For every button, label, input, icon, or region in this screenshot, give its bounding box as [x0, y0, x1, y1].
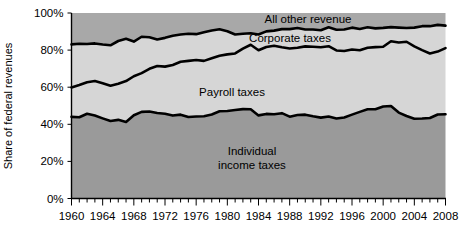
series-label-all-other-revenue: All other revenue — [265, 13, 352, 25]
x-axis-tick-label: 1984 — [246, 210, 272, 222]
x-axis-tick-label: 1964 — [90, 210, 116, 222]
x-axis-tick-label: 2000 — [370, 210, 396, 222]
series-label-individual-income-taxes-line2: income taxes — [218, 159, 286, 171]
x-axis-tick-label: 1976 — [183, 210, 209, 222]
y-axis-tick-label: 60% — [40, 81, 63, 93]
x-axis-tick-label: 1960 — [59, 210, 85, 222]
y-axis-tick-label: 100% — [34, 7, 63, 19]
x-axis-tick-label: 1968 — [121, 210, 147, 222]
x-axis-tick-label: 1972 — [152, 210, 178, 222]
series-label-payroll-taxes: Payroll taxes — [199, 86, 265, 98]
y-axis-tick-label: 20% — [40, 155, 63, 167]
x-axis-tick-label: 2004 — [402, 210, 428, 222]
y-axis-tick-label: 80% — [40, 44, 63, 56]
x-axis-tick-label: 1992 — [308, 210, 334, 222]
x-axis-tick-label: 1996 — [339, 210, 365, 222]
series-label-corporate-taxes: Corporate taxes — [249, 32, 331, 44]
y-axis-tick-label: 40% — [40, 118, 63, 130]
y-axis-tick-label: 0% — [47, 193, 64, 205]
x-axis-tick-label: 2008 — [433, 210, 459, 222]
stacked-area-chart: 0%20%40%60%80%100% 196019641968197219761… — [0, 0, 459, 240]
chart-container: 0%20%40%60%80%100% 196019641968197219761… — [0, 0, 459, 240]
series-label-individual-income-taxes-line1: Individual — [228, 145, 277, 157]
x-axis-tick-label: 1980 — [215, 210, 241, 222]
x-axis-tick-label: 1988 — [277, 210, 303, 222]
y-axis-title: Share of federal revenues — [2, 42, 14, 169]
